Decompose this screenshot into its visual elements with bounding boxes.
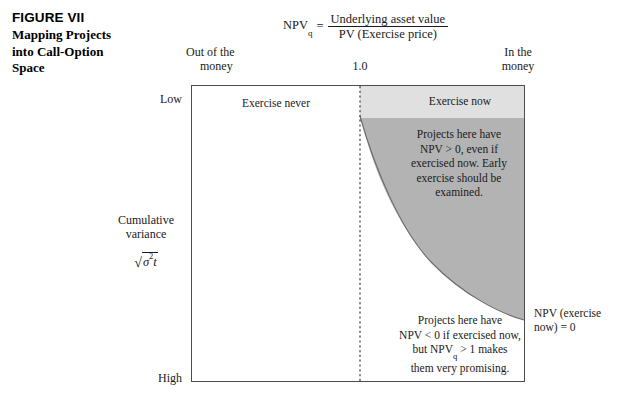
equation-subscript: q <box>308 28 313 38</box>
lower-block-line-3-suffix: > 1 makes <box>457 343 507 355</box>
lower-block-line-3: but NPVq > 1 makes <box>375 342 545 361</box>
region-text-early-exercise: Projects here have NPV > 0, even if exer… <box>379 127 539 200</box>
annotation-line-1: NPV (exercise <box>534 306 634 320</box>
annotation-npv-exercise-now-zero: NPV (exercise now) = 0 <box>534 306 634 334</box>
x-axis-label-in-the-money: In the money <box>470 46 566 73</box>
lower-block-line-2: NPV < 0 if exercised now, <box>375 328 545 343</box>
lower-block-line-1: Projects here have <box>375 313 545 328</box>
equation-fraction: Underlying asset value PV (Exercise pric… <box>328 12 449 41</box>
equation-numerator: Underlying asset value <box>328 12 449 27</box>
in-the-money-line-1: In the <box>470 46 566 60</box>
x-axis-label-out-of-the-money: Out of the money <box>186 46 276 73</box>
y-axis-title-line-2: variance <box>108 227 184 241</box>
region-label-exercise-now: Exercise now <box>380 94 540 109</box>
figure-title-line-3: Space <box>12 60 162 77</box>
sigma-exponent: 2 <box>149 251 153 261</box>
upper-block-line-3: exercised now. Early <box>379 156 539 171</box>
upper-block-line-1: Projects here have <box>379 127 539 142</box>
in-the-money-line-2: money <box>470 60 566 74</box>
equation-left-side: NPVq <box>283 18 317 35</box>
radicand: σ2t <box>142 252 158 270</box>
y-axis-label-low: Low <box>114 92 182 106</box>
region-text-very-promising: Projects here have NPV < 0 if exercised … <box>375 313 545 375</box>
figure-title: Mapping Projects into Call-Option Space <box>12 27 162 77</box>
radical-sign: √ <box>134 255 142 270</box>
y-axis-title: Cumulative variance <box>108 213 184 241</box>
upper-block-line-4: exercise should be <box>379 171 539 186</box>
figure-number: FIGURE VII <box>12 10 162 26</box>
upper-block-line-5: examined. <box>379 185 539 200</box>
out-of-money-line-2: money <box>186 60 276 74</box>
equation-denominator: PV (Exercise price) <box>328 27 449 41</box>
lower-block-line-3-prefix: but NPV <box>412 343 453 355</box>
region-label-exercise-never: Exercise never <box>196 96 356 111</box>
figure-caption-block: FIGURE VII Mapping Projects into Call-Op… <box>12 10 162 77</box>
lower-block-line-3-subscript: q <box>453 351 457 361</box>
equation-equals-sign: = <box>317 19 328 34</box>
figure-title-line-2: into Call-Option <box>12 44 162 61</box>
out-of-money-line-1: Out of the <box>186 46 276 60</box>
y-axis-label-high: High <box>114 371 182 385</box>
upper-block-line-2: NPV > 0, even if <box>379 142 539 157</box>
y-axis-formula-sqrt-sigma-squared-t: √σ2t <box>108 252 184 270</box>
annotation-line-2: now) = 0 <box>534 320 634 334</box>
time-variable: t <box>153 255 156 269</box>
lower-block-line-4: them very promising. <box>375 361 545 376</box>
y-axis-title-line-1: Cumulative <box>108 213 184 227</box>
figure-title-line-1: Mapping Projects <box>12 27 162 44</box>
x-axis-tick-1.0: 1.0 <box>336 60 384 74</box>
npv-q-equation: NPVq = Underlying asset value PV (Exerci… <box>283 12 448 41</box>
